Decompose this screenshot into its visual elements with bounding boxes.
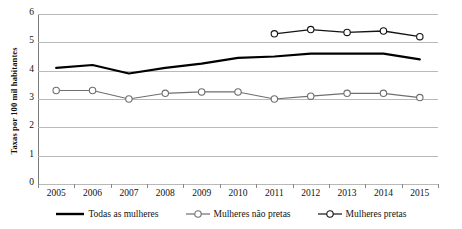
y-tick-label-0: 0: [8, 177, 34, 187]
series-2-point-3: [380, 28, 386, 34]
legend-item-0[interactable]: Todas as mulheres: [55, 208, 158, 220]
series-line-0: [56, 54, 420, 74]
x-tick-label-2012: 2012: [291, 188, 331, 198]
legend-item-1[interactable]: Mulheres não pretas: [185, 208, 291, 220]
series-2-point-4: [417, 33, 423, 39]
series-1-point-4: [198, 89, 204, 95]
series-1-point-8: [344, 90, 350, 96]
gridline-y-0: [38, 184, 438, 185]
legend-swatch-0: [55, 208, 85, 220]
series-layer: [38, 14, 438, 184]
series-1-point-9: [380, 90, 386, 96]
x-tick-label-2006: 2006: [73, 188, 113, 198]
legend-label-2: Mulheres pretas: [346, 209, 407, 219]
y-tick-label-6: 6: [8, 7, 34, 17]
legend-item-2[interactable]: Mulheres pretas: [317, 208, 407, 220]
legend-label-0: Todas as mulheres: [88, 209, 158, 219]
legend-label-1: Mulheres não pretas: [214, 209, 291, 219]
y-tick-label-5: 5: [8, 35, 34, 45]
x-tick-label-2013: 2013: [327, 188, 367, 198]
series-2-point-1: [308, 26, 314, 32]
y-tick-label-3: 3: [8, 92, 34, 102]
series-1-point-5: [235, 89, 241, 95]
y-tick-label-4: 4: [8, 64, 34, 74]
x-tick-label-2010: 2010: [218, 188, 258, 198]
x-tick-label-2015: 2015: [400, 188, 440, 198]
y-tick-label-1: 1: [8, 149, 34, 159]
chart-legend: Todas as mulheresMulheres não pretasMulh…: [0, 203, 462, 225]
series-2-point-0: [271, 31, 277, 37]
series-2-point-2: [344, 29, 350, 35]
series-1-point-3: [162, 90, 168, 96]
x-tick-label-2009: 2009: [182, 188, 222, 198]
legend-swatch-1: [185, 208, 211, 220]
y-tick-label-2: 2: [8, 120, 34, 130]
legend-swatch-2: [317, 208, 343, 220]
x-tick-label-2005: 2005: [36, 188, 76, 198]
series-1-point-1: [89, 87, 95, 93]
x-tick-label-2011: 2011: [254, 188, 294, 198]
series-1-point-0: [53, 87, 59, 93]
x-tick-label-2008: 2008: [145, 188, 185, 198]
line-chart: Taxas por 100 mil habitantes 6543210 200…: [0, 0, 462, 229]
series-1-point-2: [126, 96, 132, 102]
series-1-point-10: [417, 94, 423, 100]
series-1-point-6: [271, 96, 277, 102]
series-1-point-7: [308, 93, 314, 99]
x-tick-label-2014: 2014: [363, 188, 403, 198]
y-axis-tick-labels: 6543210: [6, 0, 34, 229]
x-tick-label-2007: 2007: [109, 188, 149, 198]
